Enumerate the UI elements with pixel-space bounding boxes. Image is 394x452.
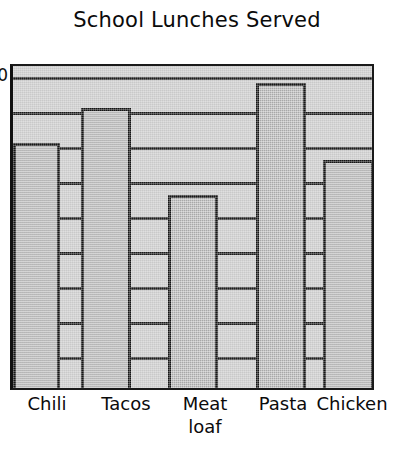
chart-container: School Lunches Served 0 ChiliTacosMeatlo…	[0, 0, 394, 452]
bar-pasta[interactable]	[256, 83, 306, 388]
bar-texture	[259, 86, 303, 388]
bar-chili[interactable]	[13, 143, 60, 388]
bar-chicken[interactable]	[323, 160, 374, 388]
gridline	[13, 112, 372, 115]
gridline	[13, 147, 372, 150]
bar-tacos[interactable]	[81, 108, 131, 388]
plot-area	[10, 64, 374, 390]
gridline	[13, 182, 372, 185]
chart-title: School Lunches Served	[0, 8, 394, 32]
x-axis-label-line2: loaf	[145, 415, 265, 438]
bar-texture	[171, 198, 215, 388]
bar-texture	[326, 163, 371, 388]
y-axis-tick: 0	[0, 65, 8, 85]
y-axis-tick-labels: 0	[0, 64, 10, 390]
bar-texture	[16, 146, 57, 388]
bar-texture	[84, 111, 128, 388]
gridline	[13, 77, 372, 80]
x-axis-category-labels: ChiliTacosMeatloafPastaChicken	[0, 392, 394, 452]
x-axis-label-chicken: Chicken	[292, 392, 394, 415]
bar-meat-loaf[interactable]	[168, 195, 218, 388]
